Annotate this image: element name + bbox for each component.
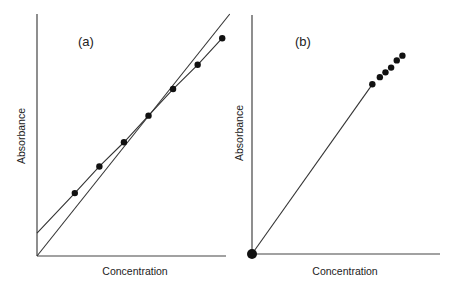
data-point xyxy=(377,74,383,80)
data-point xyxy=(170,86,176,92)
series-line-fit xyxy=(252,84,372,254)
data-point xyxy=(382,69,388,75)
y-axis-label: Absorbance xyxy=(233,105,245,161)
x-axis-label: Concentration xyxy=(312,265,378,277)
series-line-ideal xyxy=(37,14,230,256)
data-point xyxy=(96,163,102,169)
data-point xyxy=(399,52,405,58)
series-line-measured xyxy=(37,38,222,233)
data-point xyxy=(72,190,78,196)
data-point xyxy=(219,35,225,41)
y-axis-label: Absorbance xyxy=(15,108,27,164)
panel-b: (b) Concentration Absorbance xyxy=(233,15,440,277)
figure: (a) Concentration Absorbance (b) Concent… xyxy=(0,0,455,286)
data-point xyxy=(369,81,375,87)
data-point xyxy=(394,57,400,63)
panel-a: (a) Concentration Absorbance xyxy=(15,14,230,277)
data-point xyxy=(145,112,151,118)
x-axis-label: Concentration xyxy=(102,265,168,277)
panel-label: (b) xyxy=(295,34,311,49)
data-point xyxy=(194,62,200,68)
data-point xyxy=(121,139,127,145)
data-point xyxy=(388,64,394,70)
data-point xyxy=(247,249,257,259)
panel-label: (a) xyxy=(78,34,94,49)
